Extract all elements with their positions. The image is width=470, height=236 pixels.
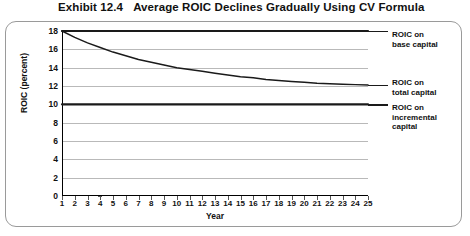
annotation-leader-line <box>368 104 388 105</box>
y-axis-title: ROIC (percent) <box>19 53 29 113</box>
exhibit-number: Exhibit 12.4 <box>58 1 123 13</box>
exhibit-title-row: Exhibit 12.4 Average ROIC Declines Gradu… <box>58 0 458 15</box>
x-tick-label: 10 <box>172 199 181 208</box>
y-tick-label: 0 <box>53 191 58 201</box>
y-tick-label: 6 <box>53 136 58 146</box>
x-tick-label: 3 <box>85 199 89 208</box>
x-tick-label: 4 <box>98 199 102 208</box>
series-lines <box>62 31 368 196</box>
x-tick-label: 11 <box>185 199 193 208</box>
x-tick-label: 7 <box>136 199 140 208</box>
x-tick-label: 9 <box>162 199 166 208</box>
x-axis-tick-labels: 1234567891011121314151617181920212223242… <box>62 199 368 211</box>
annotation-line: incremental <box>392 113 437 123</box>
annotation-line: ROIC on <box>392 78 436 88</box>
y-tick-label: 4 <box>53 154 58 164</box>
exhibit-figure: Exhibit 12.4 Average ROIC Declines Gradu… <box>0 0 470 236</box>
x-tick-label: 24 <box>351 199 360 208</box>
x-tick-label: 20 <box>300 199 309 208</box>
x-tick-label: 17 <box>262 199 271 208</box>
x-tick-label: 2 <box>73 199 77 208</box>
annotation-line: capital <box>392 122 437 132</box>
annotation-leader-line <box>368 85 388 86</box>
plot-area <box>62 31 368 196</box>
x-tick-label: 19 <box>287 199 296 208</box>
x-tick-label: 8 <box>149 199 153 208</box>
x-tick-label: 23 <box>338 199 347 208</box>
annotation-line: base capital <box>392 40 438 50</box>
x-tick-label: 6 <box>124 199 128 208</box>
y-tick-label: 14 <box>49 63 58 73</box>
annotation-line: ROIC on <box>392 103 437 113</box>
x-tick-label: 16 <box>249 199 258 208</box>
y-tick-label: 8 <box>53 118 58 128</box>
y-axis-tick-labels: 024681012141618 <box>40 31 58 196</box>
annotation-line: total capital <box>392 88 436 98</box>
series-annotation: ROIC onbase capital <box>392 30 438 49</box>
series-annotation: ROIC onincrementalcapital <box>392 103 437 132</box>
x-tick-label: 12 <box>198 199 207 208</box>
series-line <box>62 31 368 85</box>
x-tick-label: 22 <box>325 199 334 208</box>
x-tick-label: 25 <box>364 199 373 208</box>
annotation-leader-line <box>368 31 388 32</box>
y-tick-label: 12 <box>49 81 58 91</box>
annotation-line: ROIC on <box>392 30 438 40</box>
y-tick-label: 16 <box>49 44 58 54</box>
x-tick-label: 18 <box>274 199 283 208</box>
series-annotation: ROIC ontotal capital <box>392 78 436 97</box>
x-tick-label: 21 <box>313 199 322 208</box>
x-tick-label: 15 <box>236 199 245 208</box>
x-axis-title: Year <box>62 211 368 221</box>
y-tick-label: 18 <box>49 26 58 36</box>
y-tick-label: 10 <box>49 99 58 109</box>
x-tick-label: 14 <box>223 199 232 208</box>
x-tick-label: 13 <box>211 199 220 208</box>
page-title: Average ROIC Declines Gradually Using CV… <box>133 1 424 13</box>
y-tick-label: 2 <box>53 173 58 183</box>
x-tick-label: 1 <box>60 199 64 208</box>
x-tick-label: 5 <box>111 199 115 208</box>
